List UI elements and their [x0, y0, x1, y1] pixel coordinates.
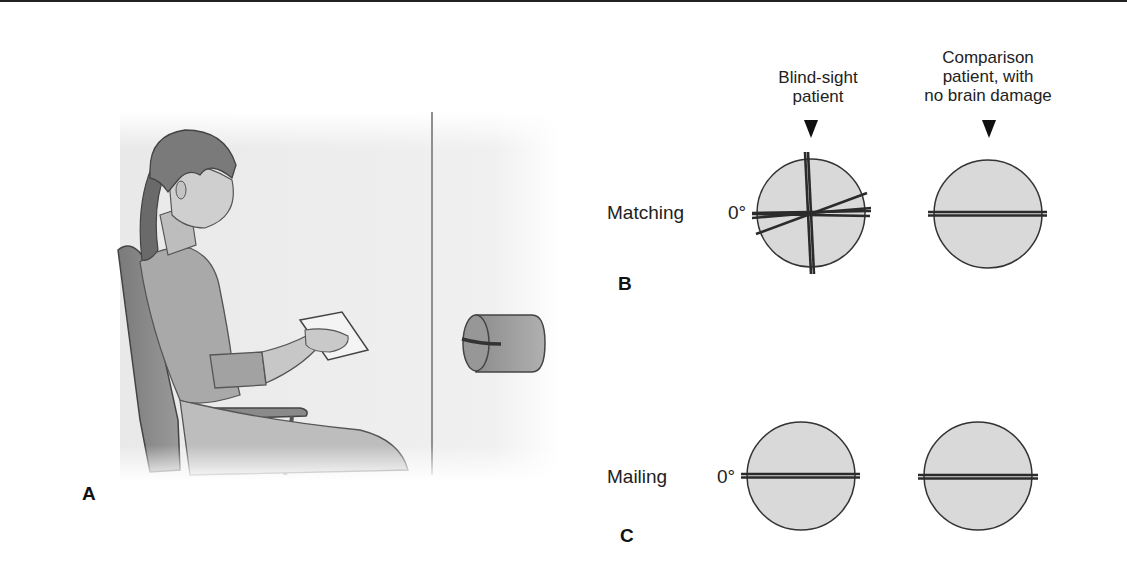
- disc-mailing-blindsight: [741, 422, 860, 530]
- disc-matching-blindsight: [752, 152, 871, 274]
- disc-matching-comparison: [928, 160, 1047, 268]
- arrow-down-icon: [982, 120, 996, 138]
- arrow-down-icon: [804, 120, 818, 138]
- disc-mailing-comparison: [918, 422, 1038, 530]
- orientation-discs: [0, 0, 1127, 574]
